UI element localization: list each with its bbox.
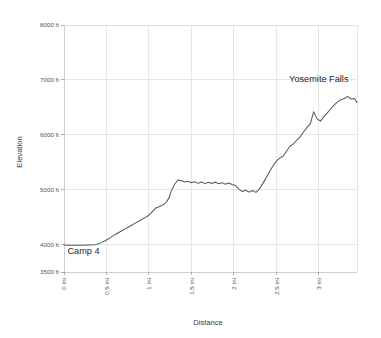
y-tick-label: 4000 ft — [40, 241, 59, 248]
chart-canvas: 3500 ft4000 ft5000 ft6000 ft7000 ft8000 … — [0, 0, 381, 338]
y-tick-label: 3500 ft — [40, 268, 59, 275]
x-tick-label: 1 mi — [145, 278, 152, 290]
y-tick-label: 8000 ft — [40, 21, 59, 28]
chart-annotation-label: Yosemite Falls — [289, 74, 349, 84]
x-tick-label: 2.5 mi — [273, 278, 280, 295]
elevation-chart: 3500 ft4000 ft5000 ft6000 ft7000 ft8000 … — [0, 0, 381, 338]
chart-annotation-label: Camp 4 — [67, 246, 99, 256]
y-tick-label: 7000 ft — [40, 76, 59, 83]
y-tick-label: 5000 ft — [40, 186, 59, 193]
x-tick-label: 3 mi — [315, 278, 322, 290]
x-tick-label: 2 mi — [230, 278, 237, 290]
x-axis-title: Distance — [193, 318, 223, 327]
x-tick-label: 1.5 mi — [188, 278, 195, 295]
x-tick-label: 0.5 mi — [103, 278, 110, 295]
y-tick-label: 6000 ft — [40, 131, 59, 138]
x-tick-label: 0 mi — [60, 278, 67, 290]
y-axis-title: Elevation — [15, 136, 24, 167]
